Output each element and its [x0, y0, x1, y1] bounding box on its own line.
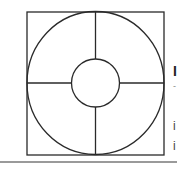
clipped-text-line: i — [173, 120, 176, 132]
clipped-text-line: - — [173, 82, 176, 91]
bottom-divider — [0, 161, 177, 163]
clipped-text-line: i — [173, 140, 176, 152]
concentric-circle-diagram — [0, 0, 177, 170]
clipped-heading: I — [173, 64, 177, 78]
inner-circle — [72, 59, 120, 107]
